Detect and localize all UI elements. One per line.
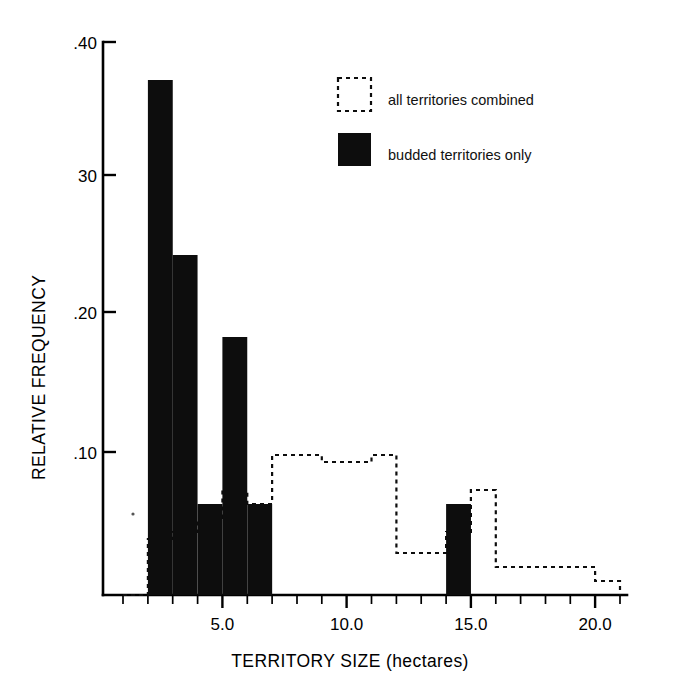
legend-label-all-territories: all territories combined — [388, 92, 534, 108]
x-axis-ticks — [222, 595, 595, 608]
x-axis-title: TERRITORY SIZE (hectares) — [231, 651, 469, 671]
x-tick-label-20.0: 20.0 — [579, 615, 612, 634]
bar-bin-3.0 — [173, 255, 198, 595]
bar-bin-2.0 — [148, 80, 173, 595]
scan-speck — [131, 512, 134, 515]
x-tick-label-15.0: 15.0 — [454, 615, 487, 634]
x-tick-label-10.0: 10.0 — [330, 615, 363, 634]
y-tick-label-0.20: .20 — [73, 304, 97, 323]
x-tick-label-5.0: 5.0 — [211, 615, 235, 634]
bar-bin-5.0 — [222, 337, 247, 595]
x-axis-minor-ticks — [123, 595, 620, 604]
legend-swatch-all-territories — [338, 78, 371, 111]
x-axis-tick-labels: 5.0 10.0 15.0 20.0 — [211, 615, 612, 634]
legend-label-budded-territories: budded territories only — [388, 147, 532, 163]
y-tick-label-0.10: .10 — [73, 444, 97, 463]
y-axis-ticks — [103, 42, 116, 452]
bar-bin-14.0 — [446, 504, 471, 595]
chart-legend: all territories combined budded territor… — [338, 78, 534, 166]
histogram-figure: .40 30 .20 .10 RELATIVE FREQUENCY — [0, 0, 684, 694]
chart-canvas: .40 30 .20 .10 RELATIVE FREQUENCY — [0, 0, 684, 694]
y-axis-tick-labels: .40 30 .20 .10 — [73, 34, 97, 463]
bar-bin-6.0 — [247, 504, 272, 595]
legend-swatch-budded-territories — [338, 133, 371, 166]
y-tick-label-0.40: .40 — [73, 34, 97, 53]
y-tick-label-0.30: 30 — [78, 167, 97, 186]
y-axis-title: RELATIVE FREQUENCY — [29, 275, 49, 480]
bar-bin-4.0 — [198, 504, 223, 595]
